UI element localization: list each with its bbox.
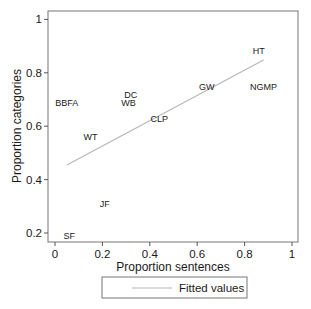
x-tick-label: 0	[52, 248, 58, 260]
y-tick-label: 0.4	[26, 174, 43, 186]
y-axis: 0.20.40.60.81	[26, 13, 48, 239]
legend-label: Fitted values	[179, 282, 244, 294]
x-tick-label: 0.6	[189, 248, 205, 260]
x-tick-label: 0.8	[237, 248, 253, 260]
point-label-bbfa: BBFA	[55, 98, 78, 108]
x-tick-label: 1	[289, 248, 295, 260]
point-label-ht: HT	[253, 46, 265, 56]
y-tick-label: 1	[36, 13, 42, 25]
legend: Fitted values	[102, 277, 247, 298]
point-label-sf: SF	[63, 231, 75, 241]
y-tick-label: 0.6	[26, 120, 42, 132]
point-label-clp: CLP	[151, 114, 169, 124]
point-label-gw: GW	[199, 82, 215, 92]
x-tick-label: 0.2	[94, 248, 110, 260]
scatter-chart: 0.20.40.60.81 00.20.40.60.81 BBFADCWBCLP…	[0, 0, 311, 309]
x-axis: 00.20.40.60.81	[52, 242, 295, 260]
point-label-ngmp: NGMP	[250, 82, 277, 92]
x-axis-title: Proportion sentences	[116, 260, 229, 274]
point-label-jf: JF	[100, 199, 111, 209]
x-tick-label: 0.4	[142, 248, 159, 260]
y-tick-label: 0.8	[26, 67, 42, 79]
point-label-wt: WT	[84, 132, 98, 142]
point-label-wb: WB	[121, 98, 136, 108]
y-axis-title: Proportion categories	[10, 69, 24, 183]
y-tick-label: 0.2	[26, 227, 42, 239]
